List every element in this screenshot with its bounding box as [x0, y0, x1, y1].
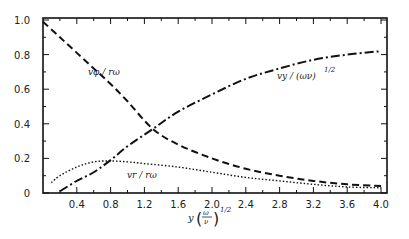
x-tick-label: 1.2 [136, 199, 152, 210]
x-axis-paren-close: ) [213, 209, 219, 228]
y-tick-label: 0.4 [14, 119, 30, 130]
x-axis-title-numerator: ω [203, 209, 209, 217]
x-tick-label: 0.8 [103, 199, 119, 210]
x-tick-label: 1.6 [170, 199, 186, 210]
x-tick-label: 4.0 [373, 199, 389, 210]
y-tick-label: 1.0 [14, 15, 30, 26]
label-v-y: vy / (ων) [277, 71, 316, 81]
axis-ticks: 0.40.81.21.62.02.42.83.23.64.000.20.40.6… [14, 15, 389, 210]
x-tick-label: 3.2 [305, 199, 321, 210]
y-tick-label: 0.8 [14, 50, 30, 61]
x-tick-label: 0.4 [69, 199, 85, 210]
x-tick-label: 2.8 [272, 199, 288, 210]
x-tick-label: 3.6 [339, 199, 355, 210]
label-v-phi: vφ / rω [88, 67, 120, 77]
label-v-y-exponent: 1/2 [324, 66, 336, 74]
x-axis-title-y: y [187, 212, 194, 223]
y-tick-label: 0.6 [14, 84, 30, 95]
label-v-r: vr / rω [127, 170, 157, 180]
plot-frame [43, 18, 387, 193]
y-tick-label: 0 [24, 188, 30, 199]
curves [43, 22, 381, 192]
x-axis-title-exponent: 1/2 [220, 206, 232, 214]
curve-v-phi [43, 22, 381, 186]
x-tick-label: 2.4 [238, 199, 254, 210]
curve-labels: vφ / rω vy / (ων) 1/2 vr / rω [88, 66, 336, 180]
velocity-profile-chart: 0.40.81.21.62.02.42.83.23.64.000.20.40.6… [0, 0, 409, 239]
x-axis-paren-open: ( [196, 209, 202, 228]
x-axis-title-denominator: ν [204, 218, 209, 226]
y-tick-label: 0.2 [14, 153, 30, 164]
